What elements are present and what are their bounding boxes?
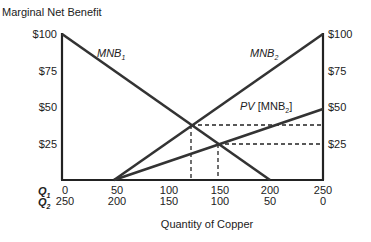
mnb2-label: MNB2 bbox=[250, 47, 278, 61]
q1-ticks: 0 50 100 150 200 250 bbox=[62, 184, 332, 196]
y-axis-title: Marginal Net Benefit bbox=[2, 6, 102, 18]
svg-text:$75: $75 bbox=[39, 65, 57, 77]
chart: Marginal Net Benefit $100 $75 $50 $25 $1… bbox=[0, 0, 371, 242]
svg-text:150: 150 bbox=[160, 195, 178, 207]
pv-mnb2-label: PV [MNB2] bbox=[240, 100, 292, 114]
svg-text:0: 0 bbox=[320, 195, 326, 207]
svg-text:200: 200 bbox=[108, 195, 126, 207]
svg-text:$25: $25 bbox=[328, 138, 346, 150]
svg-text:100: 100 bbox=[211, 195, 229, 207]
svg-text:$50: $50 bbox=[39, 101, 57, 113]
mnb1-line bbox=[62, 34, 270, 180]
mnb1-label: MNB1 bbox=[97, 47, 125, 61]
left-ticks: $100 $75 $50 $25 bbox=[33, 28, 57, 150]
right-ticks: $100 $75 $50 $25 bbox=[328, 28, 352, 150]
x-axis-title: Quantity of Copper bbox=[161, 218, 254, 230]
svg-text:$100: $100 bbox=[328, 28, 352, 40]
q2-ticks: 250 200 150 100 50 0 bbox=[56, 195, 326, 207]
svg-text:$50: $50 bbox=[328, 101, 346, 113]
svg-text:250: 250 bbox=[56, 195, 74, 207]
svg-text:$25: $25 bbox=[39, 138, 57, 150]
svg-text:$100: $100 bbox=[33, 28, 57, 40]
svg-text:50: 50 bbox=[264, 195, 276, 207]
svg-text:$75: $75 bbox=[328, 65, 346, 77]
